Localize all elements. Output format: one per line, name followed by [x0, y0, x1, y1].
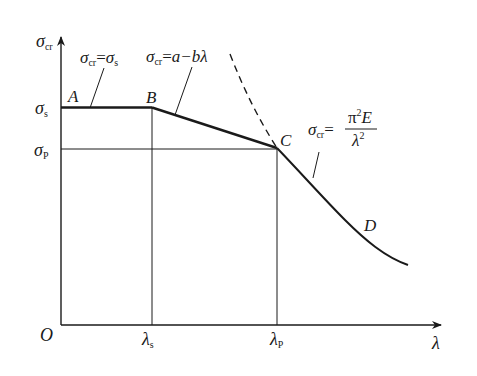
svg-text:λ2: λ2: [351, 130, 364, 150]
point-label-b: B: [146, 88, 157, 107]
segment-cd-euler: [277, 148, 408, 265]
leader-yield-formula: [90, 68, 104, 108]
leader-linear-formula: [175, 67, 192, 115]
y-axis-label: σcr: [36, 31, 53, 52]
svg-text:π2E: π2E: [348, 107, 373, 127]
x-tick-lambda-s: λs: [141, 329, 154, 350]
origin-label: O: [40, 325, 53, 345]
x-axis-label: λ: [431, 333, 440, 353]
critical-stress-diagram: σcr λ O σs σP λs λP A B C D σcr=σs σcr=a…: [0, 0, 477, 376]
point-label-a: A: [67, 87, 79, 106]
y-tick-sigma-p: σP: [34, 140, 49, 161]
leader-euler-formula: [313, 152, 319, 178]
segment-bc-linear: [152, 108, 277, 149]
formula-linear: σcr=a−bλ: [146, 47, 208, 67]
svg-text:σcr=: σcr=: [308, 120, 334, 140]
x-tick-lambda-p: λP: [269, 329, 284, 350]
formula-yield: σcr=σs: [80, 48, 118, 68]
point-label-c: C: [280, 131, 292, 150]
formula-euler: σcr= π2E λ2: [308, 107, 377, 150]
point-label-d: D: [363, 216, 377, 235]
y-tick-sigma-s: σs: [35, 98, 48, 119]
